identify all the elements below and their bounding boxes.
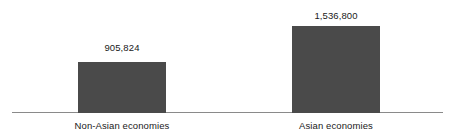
bar-value-label-asian-economies: 1,536,800	[292, 10, 380, 21]
category-label-asian-economies: Asian economies	[266, 120, 406, 131]
category-label-non-asian-economies: Non-Asian economies	[52, 120, 192, 131]
bar-asian-economies	[292, 26, 380, 113]
plot-area: 905,824 1,536,800 Non-Asian economies As…	[0, 0, 457, 140]
bar-chart: 905,824 1,536,800 Non-Asian economies As…	[0, 0, 457, 140]
bar-non-asian-economies	[78, 62, 166, 113]
bar-value-label-non-asian-economies: 905,824	[78, 42, 166, 53]
